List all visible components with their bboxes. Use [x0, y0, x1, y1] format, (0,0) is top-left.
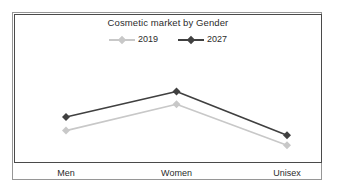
- data-point-2027-Unisex[interactable]: [283, 131, 291, 139]
- category-label-women: Women: [161, 168, 192, 178]
- data-point-2027-Men[interactable]: [62, 113, 70, 121]
- series-line-2027: [66, 91, 287, 135]
- data-point-2019-Men[interactable]: [62, 127, 70, 135]
- data-point-2019-Unisex[interactable]: [283, 141, 291, 149]
- chart-screenshot: Cosmetic market by Gender 2019 2027 MenW…: [0, 0, 337, 193]
- plot-canvas: [14, 14, 322, 163]
- data-point-2027-Women[interactable]: [173, 87, 181, 95]
- series-line-2019: [66, 104, 287, 145]
- category-label-unisex: Unisex: [273, 168, 301, 178]
- category-label-men: Men: [57, 168, 75, 178]
- category-axis-labels: MenWomenUnisex: [14, 168, 322, 182]
- data-point-2019-Women[interactable]: [173, 100, 181, 108]
